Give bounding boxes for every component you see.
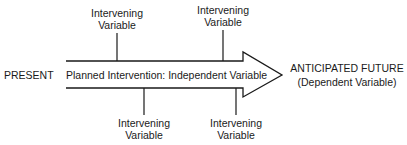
anticipated-future-label: ANTICIPATED FUTURE (Dependent Variable): [288, 62, 406, 88]
present-label: PRESENT: [4, 69, 54, 81]
independent-variable-label: Planned Intervention: Independent Variab…: [66, 69, 267, 81]
dependent-variable-line: (Dependent Variable): [288, 76, 406, 88]
iv-line2: Variable: [104, 129, 184, 141]
iv-line2: Variable: [196, 129, 276, 141]
intervening-variable-bottom-1: Intervening Variable: [104, 117, 184, 141]
iv-line2: Variable: [183, 16, 263, 28]
iv-line1: Intervening: [196, 117, 276, 129]
intervening-variable-top-2: Intervening Variable: [183, 4, 263, 28]
intervening-variable-bottom-2: Intervening Variable: [196, 117, 276, 141]
iv-line1: Intervening: [77, 7, 157, 19]
iv-line1: Intervening: [104, 117, 184, 129]
iv-line2: Variable: [77, 19, 157, 31]
anticipated-future-line1: ANTICIPATED FUTURE: [288, 62, 406, 74]
intervening-variable-top-1: Intervening Variable: [77, 7, 157, 31]
iv-line1: Intervening: [183, 4, 263, 16]
